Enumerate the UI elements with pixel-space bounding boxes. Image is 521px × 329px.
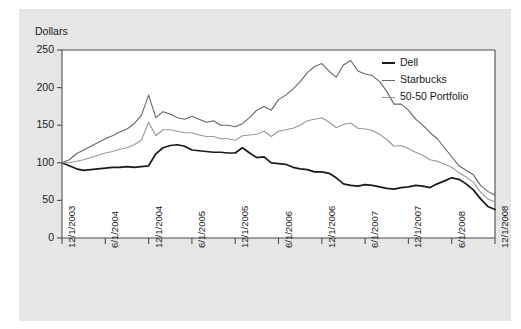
x-tick-label-6/1/2004: 6/1/2004 bbox=[109, 211, 120, 248]
y-tick-label-50: 50 bbox=[24, 193, 54, 205]
x-tick-label-12/1/2006: 12/1/2006 bbox=[326, 206, 337, 248]
y-tick-label-250: 250 bbox=[24, 43, 54, 55]
legend-label: Dell bbox=[400, 56, 418, 68]
legend-entry-dell: Dell bbox=[382, 56, 418, 68]
legend-entry-starbucks: Starbucks bbox=[382, 73, 447, 85]
legend-swatch-icon bbox=[382, 80, 395, 81]
legend-entry-50-50-portfolio: 50-50 Portfolio bbox=[382, 90, 468, 102]
chart-root: Dollars 050100150200250 12/1/20036/1/200… bbox=[0, 0, 521, 329]
y-tick-label-0: 0 bbox=[24, 231, 54, 243]
x-tick-label-12/1/2008: 12/1/2008 bbox=[499, 206, 510, 248]
x-tick-label-6/1/2007: 6/1/2007 bbox=[369, 211, 380, 248]
x-tick-label-12/1/2004: 12/1/2004 bbox=[153, 206, 164, 248]
y-axis-title: Dollars bbox=[35, 25, 68, 37]
y-tick-label-150: 150 bbox=[24, 118, 54, 130]
y-tick-label-200: 200 bbox=[24, 81, 54, 93]
line-chart-svg bbox=[0, 0, 521, 329]
x-tick-label-12/1/2007: 12/1/2007 bbox=[412, 206, 423, 248]
legend-swatch-icon bbox=[382, 62, 395, 64]
x-tick-label-6/1/2005: 6/1/2005 bbox=[196, 211, 207, 248]
x-tick-label-6/1/2006: 6/1/2006 bbox=[283, 211, 294, 248]
x-tick-label-6/1/2008: 6/1/2008 bbox=[456, 211, 467, 248]
y-axis-tick-marks bbox=[57, 50, 62, 238]
legend-label: Starbucks bbox=[400, 73, 447, 85]
y-tick-label-100: 100 bbox=[24, 156, 54, 168]
x-tick-label-12/1/2005: 12/1/2005 bbox=[239, 206, 250, 248]
x-tick-label-12/1/2003: 12/1/2003 bbox=[66, 206, 77, 248]
legend-swatch-icon bbox=[382, 97, 395, 98]
x-axis-tick-marks bbox=[62, 238, 495, 244]
legend-label: 50-50 Portfolio bbox=[400, 90, 468, 102]
